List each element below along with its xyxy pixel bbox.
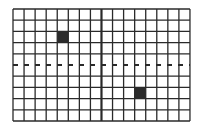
- grid-diagram: [0, 0, 200, 131]
- filled-cell: [57, 31, 68, 42]
- filled-cell: [135, 87, 146, 98]
